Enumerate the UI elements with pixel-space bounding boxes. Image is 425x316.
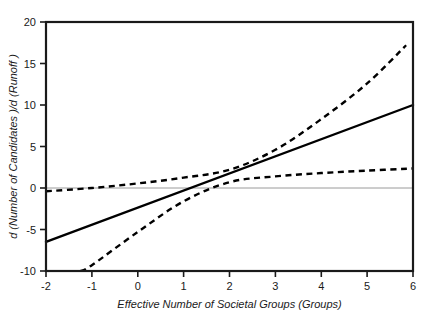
y-tick-label: 0	[30, 182, 36, 194]
y-tick-label: 15	[24, 58, 36, 70]
chart-svg: 20 15 10 5 0 -5 -10 -2 -1 0 1 2 3	[0, 0, 425, 316]
y-tick-label: 5	[30, 141, 36, 153]
y-tick-labels: 20 15 10 5 0 -5 -10	[20, 16, 36, 277]
x-tick-label: -1	[87, 280, 97, 292]
x-tick-label: 4	[318, 280, 324, 292]
x-tick-label: -2	[41, 280, 51, 292]
chart-figure: 20 15 10 5 0 -5 -10 -2 -1 0 1 2 3	[0, 0, 425, 316]
x-axis-title: Effective Number of Societal Groups (Gro…	[117, 298, 342, 310]
y-tick-label: -10	[20, 265, 36, 277]
plot-area-background	[46, 22, 413, 271]
y-tick-label: -5	[26, 224, 36, 236]
x-tick-label: 6	[410, 280, 416, 292]
x-tick-labels: -2 -1 0 1 2 3 4 5 6	[41, 280, 416, 292]
y-axis-title: d (Number of Candidates )/d (Runoff )	[7, 54, 19, 239]
x-tick-label: 2	[226, 280, 232, 292]
x-tick-label: 0	[135, 280, 141, 292]
x-tick-label: 5	[364, 280, 370, 292]
x-tick-label: 3	[272, 280, 278, 292]
y-tick-label: 20	[24, 16, 36, 28]
x-tick-label: 1	[181, 280, 187, 292]
y-tick-label: 10	[24, 99, 36, 111]
